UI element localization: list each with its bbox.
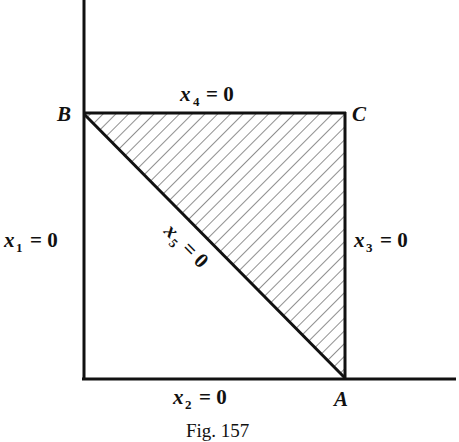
vertex-b-label: B <box>56 102 71 126</box>
svg-text:4: 4 <box>193 94 200 109</box>
vertex-a-label: A <box>332 387 348 411</box>
svg-text:x: x <box>179 82 191 106</box>
svg-text:x: x <box>172 385 184 409</box>
svg-text:3: 3 <box>366 240 373 255</box>
svg-text:= 0: = 0 <box>380 228 408 252</box>
feasible-region-diagram: B C A x 4 = 0 x 1 = 0 x 3 = 0 x 2 = 0 x … <box>0 0 459 442</box>
svg-text:1: 1 <box>16 240 23 255</box>
svg-text:= 0: = 0 <box>30 228 58 252</box>
svg-text:= 0: = 0 <box>206 82 234 106</box>
svg-text:2: 2 <box>185 397 192 412</box>
figure-caption: Fig. 157 <box>186 420 249 441</box>
constraint-x3-label: x 3 = 0 <box>353 228 408 255</box>
svg-text:x: x <box>3 228 15 252</box>
vertex-c-label: C <box>352 102 367 126</box>
constraint-x1-label: x 1 = 0 <box>3 228 58 255</box>
svg-text:x: x <box>353 228 365 252</box>
constraint-x2-label: x 2 = 0 <box>172 385 227 412</box>
constraint-x4-label: x 4 = 0 <box>179 82 234 109</box>
svg-text:= 0: = 0 <box>199 385 227 409</box>
